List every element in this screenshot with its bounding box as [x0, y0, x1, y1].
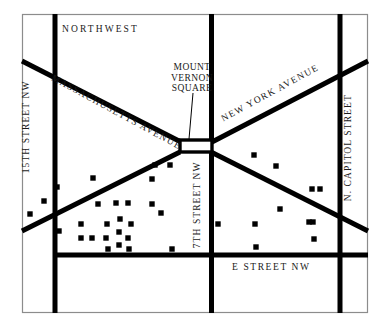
- map-marker: [126, 246, 131, 251]
- map-marker: [113, 200, 118, 205]
- mount-vernon-square-block: [180, 140, 212, 152]
- map-marker: [54, 184, 59, 189]
- map-marker: [149, 176, 154, 181]
- map-marker: [103, 235, 108, 240]
- map-marker: [125, 235, 130, 240]
- map-marker: [27, 211, 32, 216]
- map-marker: [252, 221, 257, 226]
- map-marker: [273, 163, 278, 168]
- map-marker: [89, 235, 94, 240]
- map-marker: [116, 242, 121, 247]
- map-marker: [251, 152, 256, 157]
- map-marker: [215, 221, 220, 226]
- map-marker: [116, 229, 121, 234]
- map-marker: [317, 186, 322, 191]
- map-marker: [169, 246, 174, 251]
- map-marker: [311, 236, 316, 241]
- map-marker: [128, 221, 133, 226]
- map-marker: [104, 221, 109, 226]
- map-marker: [90, 175, 95, 180]
- map-marker: [310, 219, 315, 224]
- map-marker: [95, 201, 100, 206]
- map-marker: [105, 246, 110, 251]
- map-marker: [152, 162, 157, 167]
- map-marker: [125, 200, 130, 205]
- map-marker: [277, 206, 282, 211]
- map-marker: [149, 201, 154, 206]
- map-marker: [117, 216, 122, 221]
- map-marker: [56, 228, 61, 233]
- map-marker: [167, 162, 172, 167]
- map-marker: [41, 198, 46, 203]
- map-marker: [309, 186, 314, 191]
- map-marker: [78, 221, 83, 226]
- map-marker: [253, 244, 258, 249]
- map-canvas: [0, 0, 391, 327]
- map-border: [23, 15, 368, 313]
- map-figure: NORTHWEST MOUNT VERNON SQUARE MASSACHUSE…: [0, 0, 391, 327]
- map-marker: [158, 210, 163, 215]
- map-marker: [78, 235, 83, 240]
